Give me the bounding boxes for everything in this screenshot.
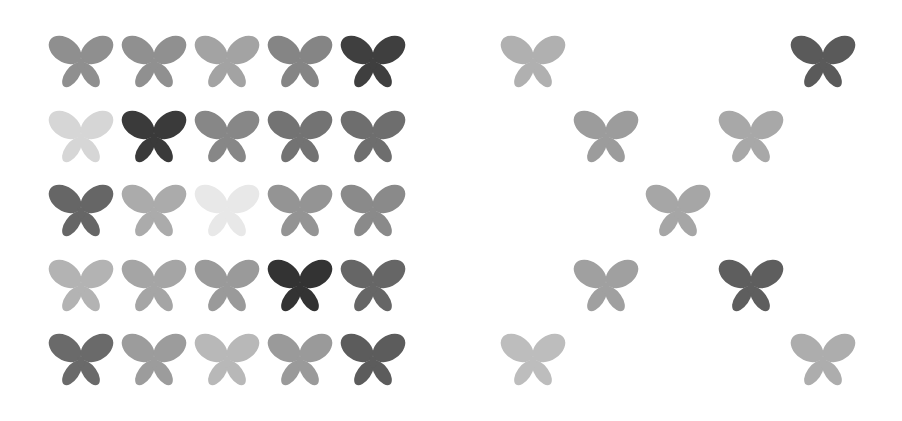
butterfly-icon	[266, 30, 334, 92]
butterfly-icon	[717, 105, 785, 167]
butterfly-icon	[266, 254, 334, 316]
butterfly-icon	[789, 328, 857, 390]
butterfly-icon	[572, 254, 640, 316]
butterfly-icon	[47, 328, 115, 390]
butterfly-icon	[193, 179, 261, 241]
butterfly-icon	[120, 179, 188, 241]
butterfly-icon	[717, 254, 785, 316]
butterfly-icon	[47, 30, 115, 92]
butterfly-icon	[193, 30, 261, 92]
butterfly-icon	[572, 105, 640, 167]
butterfly-icon	[339, 30, 407, 92]
butterfly-icon	[266, 105, 334, 167]
butterfly-icon	[339, 328, 407, 390]
butterfly-icon	[499, 30, 567, 92]
butterfly-icon	[193, 254, 261, 316]
butterfly-icon	[644, 179, 712, 241]
butterfly-icon	[789, 30, 857, 92]
butterfly-icon	[47, 105, 115, 167]
butterfly-icon	[339, 179, 407, 241]
butterfly-icon	[266, 328, 334, 390]
butterfly-icon	[47, 179, 115, 241]
butterfly-icon	[193, 328, 261, 390]
butterfly-icon	[120, 254, 188, 316]
butterfly-icon	[499, 328, 567, 390]
butterfly-icon	[120, 30, 188, 92]
butterfly-icon	[47, 254, 115, 316]
butterfly-icon	[339, 105, 407, 167]
butterfly-icon	[339, 254, 407, 316]
butterfly-icon	[120, 105, 188, 167]
butterfly-icon	[266, 179, 334, 241]
butterfly-icon	[193, 105, 261, 167]
butterfly-icon	[120, 328, 188, 390]
